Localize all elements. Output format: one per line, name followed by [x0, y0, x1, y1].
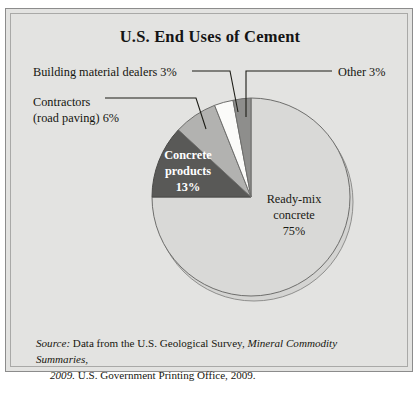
- slice-label-ready-mix-line1: Ready-mix: [246, 191, 342, 207]
- callout-building-material-dealers-label: Building material dealers 3%: [33, 65, 177, 79]
- slice-label-concrete-products-line2: products: [147, 163, 229, 179]
- source-text-1: Data from the U.S. Geological Survey,: [70, 337, 247, 349]
- source-note: Source: Data from the U.S. Geological Su…: [36, 336, 386, 383]
- slice-label-ready-mix-concrete: Ready-mix concrete 75%: [246, 191, 342, 240]
- callout-contractors-line2: (road paving) 6%: [33, 110, 119, 126]
- callout-building-material-dealers: Building material dealers 3%: [33, 64, 177, 80]
- slice-label-ready-mix-line2: concrete: [246, 207, 342, 223]
- slice-label-ready-mix-line3: 75%: [246, 223, 342, 239]
- slice-label-concrete-products-line1: Concrete: [147, 147, 229, 163]
- slice-label-concrete-products-line3: 13%: [147, 179, 229, 195]
- slice-label-concrete-products: Concrete products 13%: [147, 147, 229, 196]
- callout-contractors-line1: Contractors: [33, 94, 119, 110]
- source-label: Source:: [36, 337, 70, 349]
- callout-contractors: Contractors (road paving) 6%: [33, 94, 119, 126]
- source-italic-year: 2009.: [50, 369, 75, 381]
- callout-other-label: Other 3%: [338, 65, 385, 79]
- source-line-2: 2009. U.S. Government Printing Office, 2…: [36, 368, 386, 384]
- figure-panel: U.S. End Uses of Cement Building materia…: [5, 8, 413, 372]
- source-text-2: U.S. Government Printing Office, 2009.: [75, 369, 256, 381]
- callout-other: Other 3%: [338, 64, 385, 80]
